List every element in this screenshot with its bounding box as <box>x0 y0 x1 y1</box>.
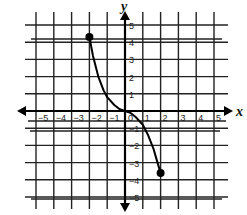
endpoint-dot <box>85 33 93 41</box>
x-tick-label: 1 <box>145 113 150 123</box>
arrow-left-icon <box>17 106 26 116</box>
y-tick-label: 1 <box>129 90 134 100</box>
arrow-down-icon <box>120 203 130 212</box>
x-tick-label: −1 <box>109 113 119 123</box>
x-tick-label: 2 <box>163 113 168 123</box>
y-tick-label: −2 <box>129 141 139 151</box>
x-tick-label: 3 <box>180 113 185 123</box>
x-axis-label: x <box>235 104 243 119</box>
x-tick-label: 5 <box>216 113 221 123</box>
x-tick-label: −3 <box>74 113 84 123</box>
y-tick-label: −5 <box>129 193 139 203</box>
y-axis-label: y <box>119 0 128 14</box>
x-tick-label: −4 <box>56 113 66 123</box>
y-tick-label: 2 <box>129 73 134 83</box>
y-tick-label: 4 <box>129 38 134 48</box>
endpoint-dot <box>157 169 165 177</box>
y-tick-label: 3 <box>129 55 134 65</box>
coordinate-plane: −5−4−3−2−101234554321−1−2−3−4−5 x y <box>0 0 247 215</box>
y-tick-label: −3 <box>129 159 139 169</box>
x-tick-label: 4 <box>198 113 203 123</box>
y-tick-label: −4 <box>129 176 139 186</box>
y-tick-label: 5 <box>129 21 134 31</box>
x-tick-label: −2 <box>91 113 101 123</box>
x-tick-label: −5 <box>38 113 48 123</box>
y-tick-label: −1 <box>129 124 139 134</box>
arrow-right-icon <box>224 106 233 116</box>
